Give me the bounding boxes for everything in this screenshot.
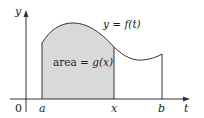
integral-area-diagram: y t 0 a x b y = f(t) area = g(x) bbox=[0, 0, 204, 118]
t-axis-arrow-icon bbox=[183, 97, 190, 102]
area-label-func: g(x) bbox=[92, 56, 113, 68]
area-label-prefix: area = bbox=[53, 56, 92, 68]
diagram-canvas: y t 0 a x b y = f(t) area = g(x) bbox=[0, 0, 204, 118]
y-axis-label: y bbox=[14, 5, 22, 18]
curve-label: y = f(t) bbox=[102, 18, 141, 30]
x-label: x bbox=[111, 102, 118, 115]
origin-label: 0 bbox=[15, 102, 22, 115]
y-axis-arrow-icon bbox=[24, 10, 29, 17]
area-label: area = g(x) bbox=[53, 56, 113, 68]
t-axis-label: t bbox=[184, 102, 189, 115]
a-label: a bbox=[39, 102, 46, 115]
b-label: b bbox=[158, 102, 165, 115]
